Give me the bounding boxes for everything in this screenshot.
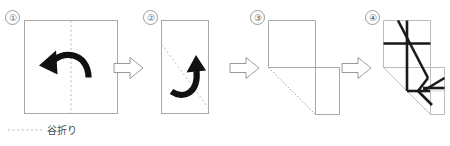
origami-instruction-figure: ① ② <box>0 0 450 146</box>
step-4-paper-outline <box>384 21 445 115</box>
step-3-diagonal-fold-edge <box>269 68 316 115</box>
step-3-upper-block <box>269 21 316 68</box>
legend: 谷折り <box>8 122 77 137</box>
crease-lower-diagonal <box>418 91 432 105</box>
legend-label: 谷折り <box>47 122 77 137</box>
legend-dashed-line-sample <box>8 127 42 133</box>
step-4-panel: ④ <box>362 0 450 146</box>
step-4-drawing <box>362 0 450 146</box>
step-3-lower-right-block <box>316 68 340 115</box>
